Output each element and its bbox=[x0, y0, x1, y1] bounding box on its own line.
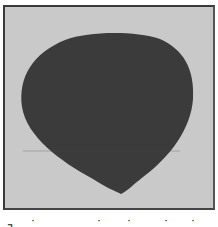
dark-teardrop-object bbox=[5, 7, 213, 208]
caption-fragment: ˙ bbox=[96, 219, 102, 227]
caption-fragment: ˙ bbox=[30, 219, 36, 227]
caption-fragment: ˙ bbox=[126, 219, 132, 227]
photo-frame bbox=[3, 5, 215, 210]
caption-fragment: ˙ bbox=[190, 219, 196, 227]
caption-fragment: ˙ bbox=[163, 219, 169, 227]
cropped-caption: ┐ ˙ ˙ ˙ ˙ ˙ bbox=[0, 219, 218, 227]
caption-fragment: ┐ bbox=[8, 219, 15, 227]
